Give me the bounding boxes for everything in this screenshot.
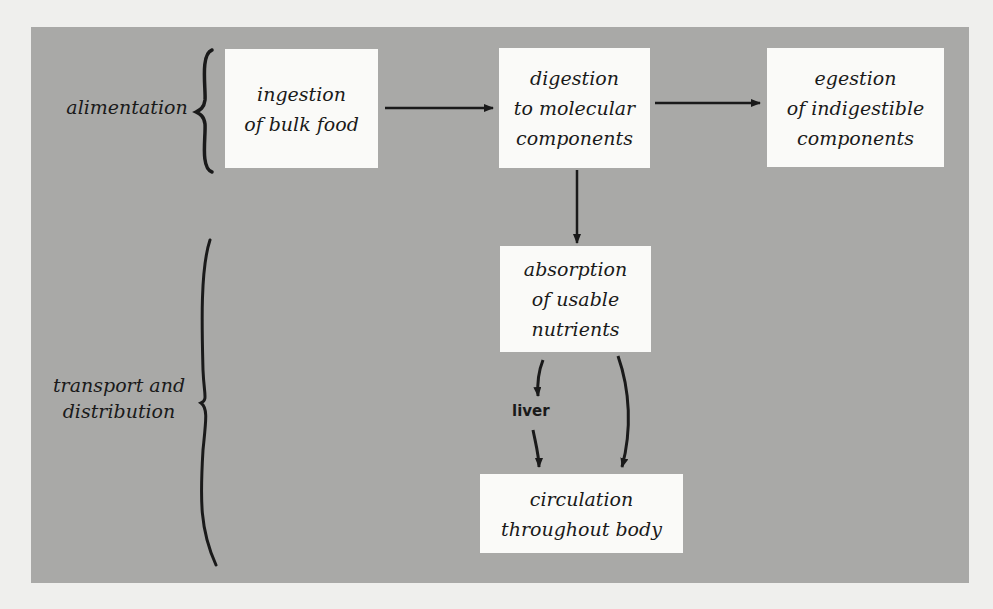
arrow-liver-to-circulation <box>533 430 539 467</box>
brace-transport-icon <box>201 240 216 565</box>
brace-alimentation-icon <box>196 50 212 172</box>
arrow-absorption-to-circulation <box>618 356 628 467</box>
arrow-absorption-to-liver <box>538 360 543 396</box>
connectors-layer <box>0 0 993 609</box>
